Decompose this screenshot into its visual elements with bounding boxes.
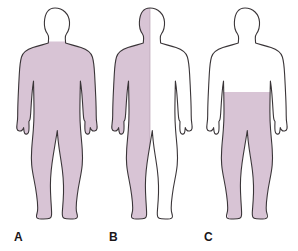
figure-label-a: A xyxy=(14,230,23,244)
figure-b-silhouette xyxy=(100,0,200,225)
figure-c-silhouette xyxy=(195,0,295,225)
figure-b[interactable] xyxy=(100,0,200,225)
figure-label-b: B xyxy=(109,230,118,244)
figure-label-c: C xyxy=(204,230,213,244)
figure-labels: A B C xyxy=(0,224,298,251)
figure-c[interactable] xyxy=(195,0,295,225)
figure-a-silhouette xyxy=(5,0,105,225)
body-diagram-panel xyxy=(0,0,298,251)
figure-a[interactable] xyxy=(5,0,105,225)
